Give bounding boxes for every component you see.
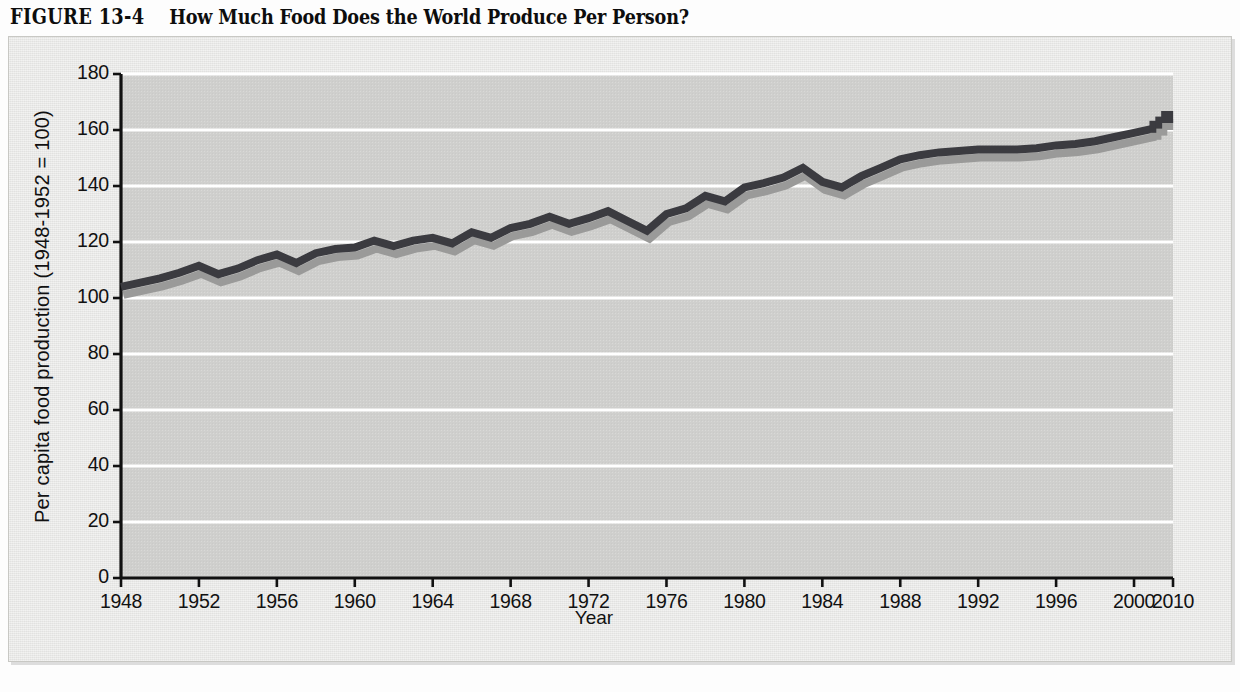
y-tick-label: 40: [47, 453, 109, 476]
x-axis-label: Year: [9, 607, 1179, 629]
figure-title: FIGURE 13-4How Much Food Does the World …: [10, 2, 1220, 32]
y-tick-label: 0: [47, 565, 109, 588]
y-tick-label: 140: [47, 173, 109, 196]
projection-dash: [1161, 111, 1173, 123]
y-tick-label: 160: [47, 117, 109, 140]
line-chart: [9, 37, 1231, 661]
y-axis-label: Per capita food production (1948-1952 = …: [31, 87, 54, 547]
y-tick-label: 100: [47, 285, 109, 308]
chart-container: 0204060801001201401601801948195219561960…: [9, 37, 1231, 661]
figure-panel: 0204060801001201401601801948195219561960…: [8, 36, 1232, 662]
figure-page: FIGURE 13-4How Much Food Does the World …: [0, 0, 1240, 692]
y-tick-label: 60: [47, 397, 109, 420]
y-tick-label: 180: [47, 61, 109, 84]
figure-caption: How Much Food Does the World Produce Per…: [144, 4, 689, 29]
y-tick-label: 20: [47, 509, 109, 532]
figure-number: FIGURE 13-4: [10, 2, 145, 29]
y-tick-label: 120: [47, 229, 109, 252]
y-tick-label: 80: [47, 341, 109, 364]
